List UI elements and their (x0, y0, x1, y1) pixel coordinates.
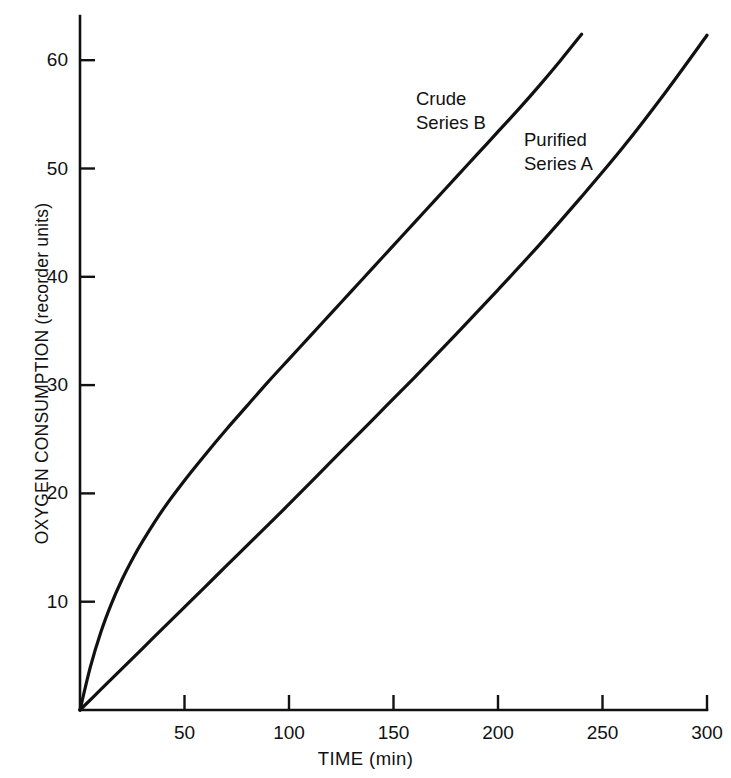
x-tick-label: 100 (273, 722, 305, 744)
axes-group (80, 16, 707, 710)
series-b-annotation-line1: Crude (416, 87, 486, 111)
curve-crude-series-b (80, 34, 582, 710)
series-b-annotation: Crude Series B (416, 87, 486, 134)
x-tick-label: 300 (691, 722, 723, 744)
chart-figure: 102030405060 50100150200250300 OXYGEN CO… (0, 0, 731, 778)
series-a-annotation-line2: Series A (524, 152, 593, 176)
curve-purified-series-a (80, 35, 707, 710)
series-a-annotation: Purified Series A (524, 128, 593, 175)
x-tick-label: 150 (378, 722, 410, 744)
x-tick-marks (185, 695, 708, 710)
y-axis-title: OXYGEN CONSUMPTION (recorder units) (32, 164, 53, 584)
y-tick-label: 60 (22, 49, 68, 71)
series-a-annotation-line1: Purified (524, 128, 593, 152)
x-tick-label: 250 (587, 722, 619, 744)
x-tick-label: 50 (174, 722, 195, 744)
data-curves (80, 34, 707, 710)
chart-canvas (0, 0, 731, 778)
x-tick-label: 200 (482, 722, 514, 744)
series-b-annotation-line2: Series B (416, 111, 486, 135)
y-tick-marks (80, 60, 95, 602)
x-axis-title: TIME (min) (0, 748, 731, 770)
y-tick-label: 10 (22, 591, 68, 613)
